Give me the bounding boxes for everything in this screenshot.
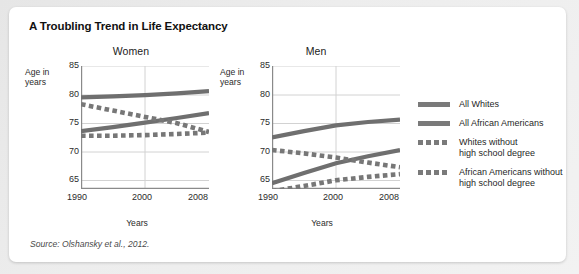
y-tick-men-75: 75	[244, 117, 270, 127]
source-note: Source: Olshansky et al., 2012.	[30, 239, 149, 249]
x-tick-men-2008: 2008	[379, 192, 399, 202]
y-tick-labels-women: 85 80 75 70 65	[51, 66, 79, 189]
page-title: A Troubling Trend in Life Expectancy	[29, 20, 228, 32]
plot-svg-women	[81, 66, 209, 189]
y-axis-caption-men: Age inyears	[220, 67, 244, 87]
legend-label-african-americans-without-hs: African Americans without high school de…	[459, 167, 563, 189]
legend-label-all-whites: All Whites	[459, 99, 499, 110]
panel-title-women: Women	[31, 45, 231, 57]
x-tick-women-2000: 2000	[132, 192, 152, 202]
plot-area-men	[272, 66, 400, 189]
y-tick-men-85: 85	[244, 60, 270, 70]
y-tick-men-65: 65	[244, 174, 270, 184]
legend-item-all-whites: All Whites	[418, 99, 568, 110]
screenshot-root: A Troubling Trend in Life Expectancy Wom…	[0, 0, 579, 274]
y-tick-men-70: 70	[244, 146, 270, 156]
x-tick-women-2008: 2008	[188, 192, 208, 202]
legend-item-african-americans-without-hs: African Americans without high school de…	[418, 167, 568, 189]
x-axis-caption-women: Years	[37, 218, 237, 228]
legend-item-all-african-americans: All African Americans	[418, 118, 568, 129]
x-tick-women-1990: 1990	[67, 192, 87, 202]
legend-swatch-dashed-icon	[418, 170, 450, 175]
legend-swatch-dashed-icon	[418, 140, 450, 145]
plot-svg-men	[272, 66, 400, 189]
panel-title-men: Men	[216, 45, 416, 57]
y-tick-labels-men: 85 80 75 70 65	[242, 66, 270, 189]
x-tick-men-1990: 1990	[258, 192, 278, 202]
plot-area-women	[81, 66, 209, 189]
chart-panel-women: Women Age inyears 85 80 75 70 65	[23, 45, 223, 235]
y-tick-women-85: 85	[53, 60, 79, 70]
y-tick-men-80: 80	[244, 89, 270, 99]
x-axis-caption-men: Years	[222, 218, 422, 228]
legend-label-whites-without-hs: Whites without high school degree	[459, 137, 535, 159]
legend-item-whites-without-hs: Whites without high school degree	[418, 137, 568, 159]
y-tick-women-70: 70	[53, 146, 79, 156]
y-tick-women-75: 75	[53, 117, 79, 127]
y-axis-caption-women: Age inyears	[25, 67, 49, 87]
chart-card: A Troubling Trend in Life Expectancy Wom…	[9, 7, 566, 262]
legend-label-all-african-americans: All African Americans	[459, 118, 544, 129]
x-tick-men-2000: 2000	[323, 192, 343, 202]
y-tick-women-80: 80	[53, 89, 79, 99]
series-line-african-americans-without-hs-women	[81, 133, 209, 136]
legend-swatch-solid-icon	[418, 102, 450, 107]
chart-panel-men: Men Age inyears 85 80 75 70 65	[214, 45, 414, 235]
chart-legend: All Whites All African Americans Whites …	[418, 99, 568, 197]
y-tick-women-65: 65	[53, 174, 79, 184]
legend-swatch-solid-icon	[418, 121, 450, 126]
